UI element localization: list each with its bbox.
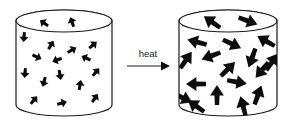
diagram-canvas (0, 0, 295, 130)
cold-gas-container (16, 10, 112, 116)
gas-heating-diagram: heat (0, 0, 295, 130)
diagram-stage: heat (0, 0, 295, 130)
container-rim-after (179, 10, 277, 32)
heat-arrow (127, 62, 170, 71)
container-rim-before (16, 10, 112, 32)
heat-label: heat (126, 48, 170, 59)
hot-gas-container (173, 10, 278, 116)
